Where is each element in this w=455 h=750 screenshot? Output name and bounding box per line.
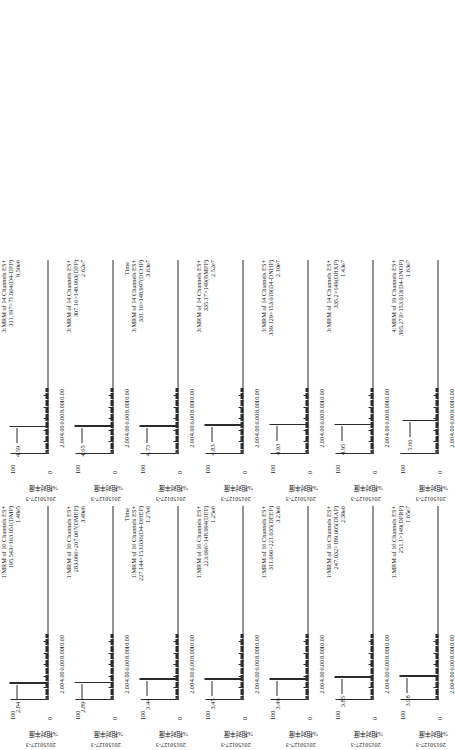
x-tick-minor: [435, 405, 438, 406]
y-max-label: 100: [204, 465, 210, 474]
sample-id: 20150127-3: [350, 496, 380, 502]
x-tick-minor: [435, 648, 438, 649]
x-tick-minor: [45, 690, 48, 691]
x-tick-minor: [175, 661, 178, 662]
x-tick-label: 4.00: [318, 671, 324, 682]
x-tick-major: [303, 407, 308, 408]
x-tick-minor: [370, 443, 373, 444]
x-tick-minor: [110, 667, 113, 668]
sample-id: 20150127-3: [415, 496, 445, 502]
y-min-label: 0: [111, 717, 117, 720]
x-tick-major: [433, 407, 438, 408]
baseline-noise: [436, 451, 437, 454]
x-tick-minor: [110, 643, 113, 644]
x-tick-minor: [110, 402, 113, 403]
x-tick-minor: [45, 673, 48, 674]
x-tick-label: 10.00: [448, 635, 454, 649]
x-tick-minor: [240, 665, 243, 666]
x-tick-minor: [240, 657, 243, 658]
x-tick-minor: [435, 677, 438, 678]
x-tick-minor: [240, 434, 243, 435]
peak-retention-time-label: 3.44: [144, 698, 150, 709]
x-tick-minor: [175, 447, 178, 448]
x-tick-major: [108, 418, 113, 419]
x-tick-minor: [370, 673, 373, 674]
y-min-label: 0: [436, 717, 442, 720]
x-tick-minor: [45, 388, 48, 389]
x-tick-label: 4.00: [383, 671, 389, 682]
x-tick-minor: [45, 421, 48, 422]
x-tick-minor: [240, 635, 243, 636]
x-tick-minor: [110, 665, 113, 666]
x-tick-minor: [110, 642, 113, 643]
chromatogram-panel: 1:MRM of 16 Channels ES+223.096>148.994(…: [195, 498, 260, 744]
x-tick-minor: [175, 429, 178, 430]
y-max-label: 100: [399, 465, 405, 474]
x-tick-major: [303, 641, 308, 642]
x-tick-minor: [435, 422, 438, 423]
x-tick-minor: [175, 635, 178, 636]
x-tick-minor: [110, 415, 113, 416]
x-tick-label: 6.00: [318, 660, 324, 671]
x-tick-minor: [240, 394, 243, 395]
x-tick-minor: [435, 691, 438, 692]
chromatogram-panel: 3:MRM of 14 Channels ES+335.2>149(DHXP)1…: [325, 252, 390, 498]
x-tick-minor: [110, 689, 113, 690]
x-tick-minor: [370, 655, 373, 656]
plot-area: 2.004.006.008.0010.002.84: [0, 506, 65, 700]
x-tick-label: 8.00: [383, 648, 389, 659]
y-axis-title: %相对丰度: [353, 485, 382, 491]
x-tick-minor: [175, 402, 178, 403]
x-tick-label: 10.00: [253, 635, 259, 649]
x-tick-major: [173, 441, 178, 442]
x-tick-minor: [370, 416, 373, 417]
x-tick-minor: [435, 660, 438, 661]
chromatogram-peak: [9, 682, 47, 684]
x-tick-minor: [370, 683, 373, 684]
plot-area: 2.004.006.008.0010.005.66: [390, 260, 455, 454]
baseline-noise: [241, 697, 242, 700]
x-tick-minor: [370, 672, 373, 673]
x-tick-minor: [175, 397, 178, 398]
x-tick-major: [303, 653, 308, 654]
x-tick-major: [303, 676, 308, 677]
x-tick-minor: [305, 437, 308, 438]
x-tick-minor: [175, 649, 178, 650]
x-tick-label: 6.00: [188, 660, 194, 671]
x-tick-minor: [45, 390, 48, 391]
x-tick-minor: [175, 680, 178, 681]
x-tick-minor: [240, 436, 243, 437]
x-tick-minor: [240, 660, 243, 661]
x-tick-minor: [45, 440, 48, 441]
sample-id: 20150127-3: [25, 742, 55, 748]
x-tick-minor: [175, 657, 178, 658]
x-tick-label: 4.00: [318, 425, 324, 436]
x-tick-label: 8.00: [58, 402, 64, 413]
x-tick-minor: [240, 684, 243, 685]
x-tick-minor: [240, 692, 243, 693]
x-tick-minor: [370, 417, 373, 418]
x-tick-minor: [370, 425, 373, 426]
x-tick-minor: [110, 644, 113, 645]
x-tick-minor: [175, 434, 178, 435]
x-tick-minor: [305, 422, 308, 423]
x-tick-minor: [305, 446, 308, 447]
x-tick-minor: [435, 684, 438, 685]
x-tick-minor: [45, 658, 48, 659]
x-tick-major: [238, 653, 243, 654]
x-tick-minor: [175, 432, 178, 433]
x-tick-minor: [305, 445, 308, 446]
x-tick-major: [433, 441, 438, 442]
x-tick-major: [433, 653, 438, 654]
x-tick-minor: [45, 400, 48, 401]
chromatogram-panel: 1:MRM of 16 Channels ES+283.096>207.067(…: [65, 498, 130, 744]
x-tick-minor: [370, 651, 373, 652]
x-tick-minor: [435, 678, 438, 679]
x-tick-minor: [305, 684, 308, 685]
x-tick-minor: [110, 432, 113, 433]
x-tick-minor: [370, 433, 373, 434]
x-tick-label: 10.00: [188, 635, 194, 649]
x-tick-minor: [305, 654, 308, 655]
baseline-noise: [371, 697, 372, 700]
x-tick-minor: [305, 671, 308, 672]
